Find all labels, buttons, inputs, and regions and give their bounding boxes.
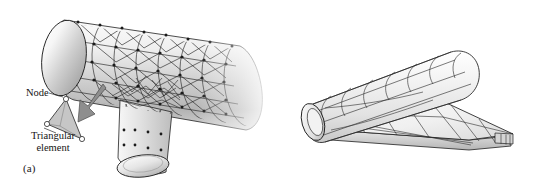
panel-b-aircraft: (b) — [273, 0, 546, 193]
node-marker — [63, 96, 68, 101]
wing-tip-slabs — [495, 133, 513, 145]
figure-container: Node Triangular element (a) — [0, 0, 546, 193]
node-marker — [44, 121, 49, 126]
aircraft-mesh-drawing — [273, 0, 546, 193]
right-edge-fade — [196, 0, 273, 193]
panel-a-tee-pipe: Node Triangular element (a) — [0, 0, 273, 193]
branch-pipe — [116, 100, 172, 180]
caption-panel-a: (a) — [23, 162, 36, 174]
annotation-node: Node — [26, 87, 49, 99]
annotation-triangular-element: Triangular element — [22, 130, 84, 153]
